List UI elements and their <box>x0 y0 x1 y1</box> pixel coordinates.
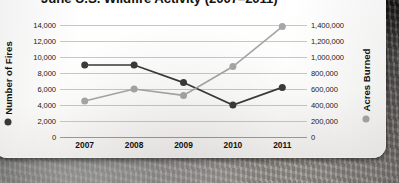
x-axis-tick-label: 2009 <box>174 140 193 150</box>
right-axis-tick-label: 0 <box>311 133 315 142</box>
right-axis-tick-label: 1,000,000 <box>311 53 344 62</box>
gridline <box>60 137 307 138</box>
data-point <box>131 86 138 93</box>
series-layer <box>60 25 307 137</box>
left-axis-tick-label: 14,000 <box>33 21 56 30</box>
data-point <box>81 98 88 105</box>
data-point <box>131 62 138 69</box>
left-axis-title: Number of Fires <box>3 32 14 136</box>
right-axis-tick-label: 1,400,000 <box>311 21 344 30</box>
data-point <box>279 23 286 30</box>
left-axis-tick-label: 8,000 <box>37 69 56 78</box>
right-axis-tick-label: 200,000 <box>311 117 338 126</box>
data-point <box>229 63 236 70</box>
data-point <box>180 79 187 86</box>
x-axis-tick-label: 2011 <box>273 140 291 150</box>
left-axis-tick-label: 2,000 <box>37 117 56 126</box>
plot-area <box>60 25 307 137</box>
acres-series-marker-icon <box>363 115 370 122</box>
right-axis-tick-label: 600,000 <box>311 85 338 94</box>
left-axis-tick-label: 10,000 <box>33 53 56 62</box>
data-point <box>229 102 236 109</box>
left-axis-tick-label: 12,000 <box>33 37 56 46</box>
x-axis-labels: 20072008200920102011 <box>60 140 307 154</box>
x-axis-tick-label: 2007 <box>75 140 94 150</box>
right-axis-tick-label: 400,000 <box>311 101 338 110</box>
x-axis-tick-label: 2010 <box>224 140 243 150</box>
chart-card: June U.S. Wildfire Activity (2007–2011) … <box>0 0 386 158</box>
data-point <box>180 92 187 99</box>
left-axis-tick-label: 4,000 <box>37 101 56 110</box>
series-line <box>85 27 283 101</box>
left-axis-tick-label: 0 <box>52 133 56 142</box>
fires-series-marker-icon <box>5 119 12 126</box>
right-axis-tick-label: 800,000 <box>311 69 338 78</box>
left-axis-tick-label: 6,000 <box>37 85 56 94</box>
left-axis-title-text: Number of Fires <box>3 41 14 115</box>
data-point <box>81 62 88 69</box>
data-point <box>279 84 286 91</box>
right-axis-tick-label: 1,200,000 <box>311 37 344 46</box>
x-axis-tick-label: 2008 <box>125 140 144 150</box>
right-axis-title: Acres Burned <box>361 38 372 134</box>
chart-title: June U.S. Wildfire Activity (2007–2011) <box>41 0 341 6</box>
right-axis-title-text: Acres Burned <box>361 49 372 112</box>
